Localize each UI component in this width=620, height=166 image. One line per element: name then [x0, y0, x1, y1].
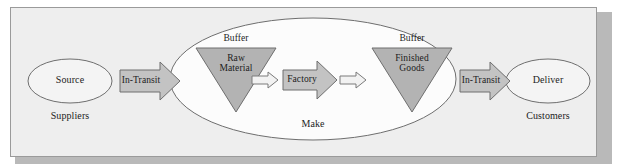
finished-goods-label: Finished Goods — [380, 54, 444, 74]
in-transit-left-label: In-Transit — [118, 75, 164, 86]
deliver-caption-customers: Customers — [508, 110, 588, 121]
source-label: Source — [30, 74, 110, 85]
factory-label: Factory — [282, 74, 322, 85]
in-transit-right-label: In-Transit — [458, 75, 504, 86]
finished-goods-caption-buffer: Buffer — [382, 33, 442, 44]
finished-goods-label-line2: Goods — [380, 64, 444, 74]
raw-material-label: Raw Material — [206, 54, 266, 74]
raw-material-label-line2: Material — [206, 64, 266, 74]
deliver-label: Deliver — [508, 74, 588, 85]
make-label: Make — [283, 118, 343, 129]
diagram-canvas: Source Suppliers In-Transit Buffer Raw M… — [0, 0, 620, 166]
source-caption-suppliers: Suppliers — [30, 110, 110, 121]
raw-material-caption-buffer: Buffer — [206, 33, 266, 44]
